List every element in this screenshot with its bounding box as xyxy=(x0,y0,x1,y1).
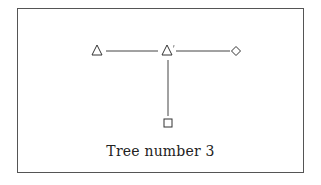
square-node-bottom-icon xyxy=(164,119,172,127)
triangle-node-center-icon xyxy=(162,45,172,55)
diagram-caption: Tree number 3 xyxy=(0,143,321,159)
triangle-node-left-icon xyxy=(92,45,102,55)
diamond-node-right-icon xyxy=(232,47,241,56)
prime-mark-icon xyxy=(174,45,175,48)
